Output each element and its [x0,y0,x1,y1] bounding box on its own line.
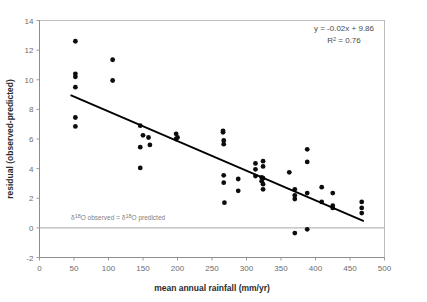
data-point [221,142,226,147]
data-point [305,227,310,232]
data-point [73,124,78,129]
y-axis-title: residual (observed-predicted) [5,79,15,199]
scatter-plot: -202468101214 05010015020025030035040045… [0,0,427,302]
reference-line-label: δ18O observed = δ18O predicted [71,213,166,223]
y-tick-label: -2 [26,254,34,263]
data-point [292,197,297,202]
data-point [148,143,153,148]
y-tick-label: 10 [25,76,34,85]
data-point [261,159,266,164]
trendline-equation: y = -0.02x + 9.86 [314,24,375,33]
plot-frame [40,21,385,258]
data-point [138,165,143,170]
data-point [261,187,266,192]
y-tick-label: 8 [29,105,34,114]
data-point [292,231,297,236]
data-point [175,135,180,140]
data-point [146,135,151,140]
x-tick-label: 50 [70,264,79,273]
x-axis-title: mean annual rainfall (mm/yr) [154,283,270,293]
y-tick-label: 0 [29,224,34,233]
data-point [236,177,241,182]
chart-container: -202468101214 05010015020025030035040045… [0,0,427,302]
data-point [305,160,310,165]
data-point [221,173,226,178]
y-axis-ticks: -202468101214 [25,17,40,263]
x-tick-label: 400 [309,264,323,273]
data-point [221,180,226,185]
data-point [110,57,115,62]
x-axis-ticks: 050100150200250300350400450500 [37,258,391,273]
data-point [261,164,266,169]
x-tick-label: 350 [274,264,288,273]
data-point [359,205,364,210]
data-point [330,191,335,196]
data-point [236,188,241,193]
y-tick-label: 12 [25,46,34,55]
y-tick-label: 2 [29,194,34,203]
x-tick-label: 200 [171,264,185,273]
data-point [73,39,78,44]
data-point [253,161,258,166]
x-tick-label: 450 [343,264,357,273]
data-point [359,200,364,205]
x-tick-label: 150 [136,264,150,273]
data-point [287,170,292,175]
x-tick-label: 0 [37,264,42,273]
plot-area-border [40,21,385,258]
data-point [73,115,78,120]
data-point [305,191,310,196]
data-point [110,78,115,83]
x-tick-label: 500 [378,264,392,273]
y-tick-label: 4 [29,165,34,174]
data-point [305,147,310,152]
data-point [73,85,78,90]
x-tick-label: 100 [102,264,116,273]
data-point [253,167,258,172]
data-point [319,185,324,190]
y-tick-label: 14 [25,17,34,26]
data-point [138,145,143,150]
data-point [73,74,78,79]
data-point [141,133,146,138]
data-point [222,200,227,205]
y-tick-label: 6 [29,135,34,144]
data-point [359,211,364,216]
x-tick-label: 300 [240,264,254,273]
data-point [261,182,266,187]
x-tick-label: 250 [205,264,219,273]
r-squared-label: R2 = 0.76 [327,36,361,46]
data-point [221,130,226,135]
